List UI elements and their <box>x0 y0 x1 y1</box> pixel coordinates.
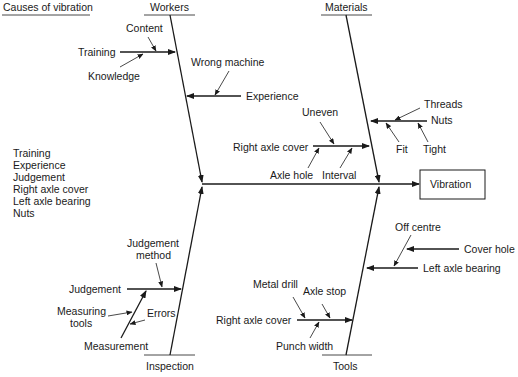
category-inspection: Inspection <box>146 360 194 372</box>
off-centre-arrow <box>394 235 411 266</box>
cause-axle-hole: Axle hole <box>270 169 313 181</box>
inspection-bone <box>170 187 202 355</box>
cause-nuts: Nuts <box>431 114 453 126</box>
key-cause-list-item: Right axle cover <box>13 183 89 195</box>
effect-label: Vibration <box>430 178 471 190</box>
wrong-machine-arrow <box>215 71 229 95</box>
workers-bone <box>170 15 202 182</box>
cause-threads: Threads <box>424 98 463 110</box>
tight-arrow <box>418 123 428 142</box>
threads-arrow <box>395 108 420 120</box>
key-cause-list-item: Training <box>13 147 51 159</box>
cause-wrong-machine: Wrong machine <box>191 56 265 68</box>
axle-stop-arrow <box>322 304 330 318</box>
content-arrow <box>148 37 156 51</box>
punch-width-arrow <box>310 322 319 338</box>
fit-arrow <box>386 123 399 142</box>
key-cause-list-item: Judgement <box>13 171 65 183</box>
diagram-title: Causes of vibration <box>3 1 93 13</box>
uneven-arrow <box>320 122 334 144</box>
cause-measuring-tools-1: Measuring <box>57 305 106 317</box>
materials-bone <box>346 15 379 182</box>
cause-measuring-tools-2: tools <box>70 317 92 329</box>
knowledge-arrow <box>120 54 143 67</box>
key-cause-list-item: Left axle bearing <box>13 195 91 207</box>
cause-experience: Experience <box>246 90 299 102</box>
cause-cover-hole: Cover hole <box>464 243 515 255</box>
measurement-branch <box>121 291 146 338</box>
axle-hole-arrow <box>308 148 319 168</box>
tools-bone <box>346 187 379 355</box>
fishbone-diagram: Causes of vibration Workers Materials In… <box>0 0 518 377</box>
key-cause-list-item: Experience <box>13 159 66 171</box>
interval-arrow <box>340 148 352 168</box>
cause-interval: Interval <box>322 169 356 181</box>
cause-measurement: Measurement <box>84 340 148 352</box>
cause-fit: Fit <box>396 143 408 155</box>
category-materials: Materials <box>325 1 368 13</box>
cause-errors: Errors <box>147 307 176 319</box>
cause-punch-width: Punch width <box>276 340 333 352</box>
category-workers: Workers <box>150 1 189 13</box>
cause-tight: Tight <box>423 143 446 155</box>
key-cause-list-item: Nuts <box>13 207 35 219</box>
cause-right-axle-cover-mat: Right axle cover <box>233 141 309 153</box>
cause-left-axle-bearing: Left axle bearing <box>423 262 501 274</box>
cause-right-axle-cover-tools: Right axle cover <box>216 314 292 326</box>
category-tools: Tools <box>333 360 358 372</box>
cause-metal-drill: Metal drill <box>253 278 298 290</box>
cause-knowledge: Knowledge <box>88 70 140 82</box>
cause-axle-stop: Axle stop <box>303 285 346 297</box>
metal-drill-arrow <box>293 297 305 318</box>
measuring-tools-arrow <box>108 312 132 316</box>
errors-arrow <box>130 320 145 324</box>
cause-judgement: Judgement <box>69 283 121 295</box>
cause-content: Content <box>126 22 163 34</box>
cause-training: Training <box>78 46 116 58</box>
judgement-method-arrow <box>156 263 162 287</box>
cause-off-centre: Off centre <box>395 221 441 233</box>
cause-uneven: Uneven <box>302 106 338 118</box>
cause-judgement-method-1: Judgement <box>127 237 179 249</box>
cause-judgement-method-2: method <box>136 249 171 261</box>
